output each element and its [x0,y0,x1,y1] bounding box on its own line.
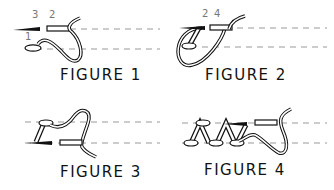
figure-4: FIGURE 4 [167,95,334,190]
point-label-1: 1 [25,31,31,42]
point-label-3: 3 [32,9,38,20]
figure-3-caption: FIGURE 3 [60,163,142,181]
point-label-2: 2 [202,8,208,19]
figure-2: 2 4 FIGURE 2 [167,0,334,95]
figure-1: 3 2 1 FIGURE 1 [0,0,167,95]
figure-4-caption: FIGURE 4 [204,161,286,179]
figure-2-caption: FIGURE 2 [205,66,287,84]
point-label-4: 4 [214,8,220,19]
figure-1-caption: FIGURE 1 [60,66,142,84]
figure-3: FIGURE 3 [0,95,167,190]
point-label-2: 2 [49,9,55,20]
